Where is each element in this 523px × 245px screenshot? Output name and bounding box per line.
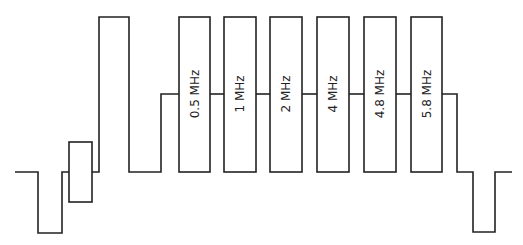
burst-packet: 5.8 MHz bbox=[411, 17, 442, 172]
burst-packet: 4.8 MHz bbox=[364, 17, 396, 172]
burst-packet: 0.5 MHz bbox=[179, 17, 210, 172]
burst-frequency-label: 1 MHz bbox=[233, 75, 247, 112]
burst-frequency-label: 5.8 MHz bbox=[420, 70, 434, 119]
waveform-right-trace bbox=[442, 94, 512, 232]
burst-frequency-label: 4 MHz bbox=[326, 75, 340, 112]
burst-frequency-label: 4.8 MHz bbox=[373, 70, 387, 119]
color-burst bbox=[69, 142, 92, 202]
waveform-left-trace bbox=[15, 172, 69, 233]
multiburst-waveform: 0.5 MHz1 MHz2 MHz4 MHz4.8 MHz5.8 MHz bbox=[0, 0, 523, 245]
burst-frequency-label: 2 MHz bbox=[279, 75, 293, 112]
burst-packet: 2 MHz bbox=[270, 17, 302, 172]
burst-frequency-label: 0.5 MHz bbox=[188, 70, 202, 119]
white-reference-bar bbox=[92, 17, 179, 172]
burst-packet: 4 MHz bbox=[317, 17, 349, 172]
burst-packet: 1 MHz bbox=[224, 17, 256, 172]
